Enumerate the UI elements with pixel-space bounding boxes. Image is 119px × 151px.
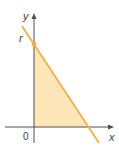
x-axis-arrow-icon <box>108 125 114 130</box>
y-axis-arrow-icon <box>32 13 37 19</box>
y-intercept-point <box>32 42 37 47</box>
y-axis-label: y <box>22 10 30 22</box>
coordinate-diagram: y r 0 x <box>0 0 119 151</box>
origin-label: 0 <box>23 131 29 142</box>
intercept-label: r <box>19 32 24 44</box>
x-axis-label: x <box>108 131 115 143</box>
